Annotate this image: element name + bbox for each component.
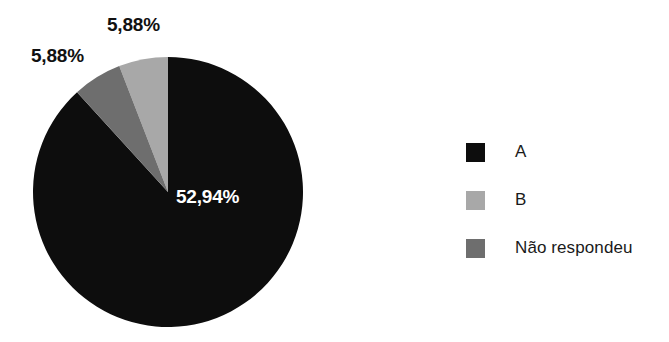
legend-label-b: B bbox=[515, 190, 526, 210]
legend-item-nao-respondeu[interactable]: Não respondeu bbox=[466, 224, 666, 272]
legend-label-nao-respondeu: Não respondeu bbox=[515, 238, 633, 258]
legend-swatch-icon-a bbox=[466, 143, 485, 162]
pie-slice-group bbox=[33, 57, 303, 327]
pie-slice-a[interactable] bbox=[33, 57, 303, 327]
pie-chart: 52,94% 5,88% 5,88% A B Não respondeu bbox=[0, 0, 669, 342]
legend-label-a: A bbox=[515, 142, 526, 162]
slice-value-label-nao-respondeu: 5,88% bbox=[107, 14, 160, 36]
legend: A B Não respondeu bbox=[466, 128, 666, 272]
legend-item-a[interactable]: A bbox=[466, 128, 666, 176]
pie-plot-area: 52,94% 5,88% 5,88% bbox=[0, 0, 340, 342]
legend-item-b[interactable]: B bbox=[466, 176, 666, 224]
legend-swatch-icon-nao-respondeu bbox=[466, 239, 485, 258]
slice-value-label-a: 52,94% bbox=[176, 186, 239, 208]
slice-value-label-b: 5,88% bbox=[31, 45, 84, 67]
legend-swatch-icon-b bbox=[466, 191, 485, 210]
